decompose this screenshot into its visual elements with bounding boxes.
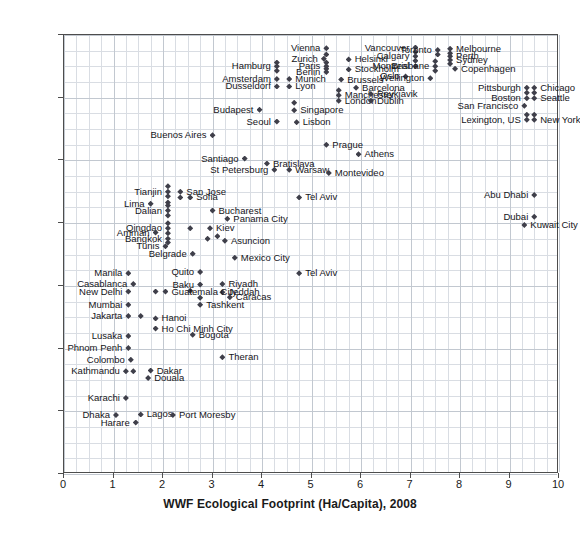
y-tick bbox=[58, 34, 63, 35]
data-point-label: Warsaw bbox=[295, 165, 329, 175]
diamond-marker-icon bbox=[148, 368, 154, 374]
diamond-marker-icon bbox=[296, 194, 302, 200]
gridline-horizontal bbox=[64, 349, 557, 350]
gridline-horizontal bbox=[64, 129, 557, 130]
data-point-label: Chicago bbox=[540, 83, 575, 93]
diamond-marker-icon bbox=[165, 208, 171, 214]
gridline-vertical bbox=[89, 35, 90, 472]
y-tick bbox=[58, 285, 63, 286]
data-point-label: Tel Aviv bbox=[305, 192, 337, 202]
gridline-vertical bbox=[188, 35, 189, 472]
data-point-label: Kathmandu bbox=[71, 366, 120, 376]
x-tick-label: 6 bbox=[357, 478, 363, 490]
diamond-marker-icon bbox=[521, 222, 527, 228]
data-point-label: Seattle bbox=[540, 93, 570, 103]
diamond-marker-icon bbox=[190, 251, 196, 257]
diamond-marker-icon bbox=[177, 194, 183, 200]
gridline-vertical bbox=[200, 35, 201, 472]
data-point-label: Vienna bbox=[291, 43, 320, 53]
data-point-label: Lexington, US bbox=[461, 115, 521, 125]
gridline-horizontal bbox=[64, 364, 557, 365]
diamond-marker-icon bbox=[524, 95, 530, 101]
gridline-horizontal bbox=[64, 443, 557, 444]
x-tick-label: 5 bbox=[307, 478, 313, 490]
data-point-label: Buenos Aires bbox=[151, 130, 207, 140]
gridline-horizontal bbox=[64, 380, 557, 381]
diamond-marker-icon bbox=[291, 100, 297, 106]
data-point-label: Mumbai bbox=[89, 300, 123, 310]
gridline-horizontal bbox=[64, 427, 557, 428]
diamond-marker-icon bbox=[130, 281, 136, 287]
gridline-vertical bbox=[312, 35, 313, 472]
diamond-marker-icon bbox=[145, 375, 151, 381]
diamond-marker-icon bbox=[138, 313, 144, 319]
diamond-marker-icon bbox=[224, 216, 230, 222]
diamond-marker-icon bbox=[427, 75, 433, 81]
data-point-label: Harare bbox=[101, 418, 130, 428]
data-point-label: Bogota bbox=[199, 330, 229, 340]
diamond-marker-icon bbox=[447, 57, 453, 63]
data-point-label: Lusaka bbox=[92, 331, 123, 341]
gridline-horizontal bbox=[64, 145, 557, 146]
diamond-marker-icon bbox=[257, 107, 263, 113]
gridline-horizontal-major bbox=[64, 411, 557, 412]
diamond-marker-icon bbox=[153, 315, 159, 321]
diamond-marker-icon bbox=[197, 302, 203, 308]
data-point-label: Montevideo bbox=[335, 168, 384, 178]
diamond-marker-icon bbox=[210, 132, 216, 138]
diamond-marker-icon bbox=[123, 368, 129, 374]
gridline-vertical bbox=[423, 35, 424, 472]
x-tick-label: 4 bbox=[258, 478, 264, 490]
diamond-marker-icon bbox=[323, 45, 329, 51]
diamond-marker-icon bbox=[232, 255, 238, 261]
gridline-horizontal-major bbox=[64, 349, 557, 350]
diamond-marker-icon bbox=[336, 92, 342, 98]
data-point-label: San Francisco bbox=[458, 101, 519, 111]
x-tick-label: 3 bbox=[208, 478, 214, 490]
data-point-label: Jakarta bbox=[91, 311, 122, 321]
diamond-marker-icon bbox=[274, 76, 280, 82]
y-tick bbox=[58, 159, 63, 160]
diamond-marker-icon bbox=[133, 420, 139, 426]
data-point-label: Hamburg bbox=[232, 61, 271, 71]
diamond-marker-icon bbox=[286, 83, 292, 89]
data-point-label: Tel Aviv bbox=[305, 268, 337, 278]
data-point-label: Wellington bbox=[380, 73, 424, 83]
diamond-marker-icon bbox=[531, 95, 537, 101]
gridline-vertical-major bbox=[411, 35, 412, 472]
gridline-horizontal bbox=[64, 286, 557, 287]
gridline-horizontal-major bbox=[64, 35, 557, 36]
y-tick bbox=[58, 473, 63, 474]
data-point-label: Lagos bbox=[147, 409, 173, 419]
data-point-label: St Petersburg bbox=[210, 165, 268, 175]
diamond-marker-icon bbox=[531, 192, 537, 198]
x-tick-label: 9 bbox=[505, 478, 511, 490]
data-point-label: Asuncion bbox=[231, 236, 270, 246]
data-point-label: Port Moresby bbox=[179, 410, 236, 420]
scatter-chart-figure: ViennaZurichParisBerlinHelsinkiStockholm… bbox=[0, 0, 580, 539]
gridline-vertical bbox=[299, 35, 300, 472]
gridline-horizontal bbox=[64, 411, 557, 412]
data-point-label: Dusseldorf bbox=[225, 81, 270, 91]
diamond-marker-icon bbox=[187, 225, 193, 231]
data-point-label: Karachi bbox=[88, 393, 120, 403]
diamond-marker-icon bbox=[521, 103, 527, 109]
gridline-vertical bbox=[114, 35, 115, 472]
data-point-label: Sofia bbox=[196, 192, 218, 202]
gridline-horizontal bbox=[64, 396, 557, 397]
gridline-vertical-major bbox=[114, 35, 115, 472]
y-tick bbox=[58, 222, 63, 223]
data-point-label: Dalian bbox=[135, 206, 162, 216]
gridline-vertical-major bbox=[312, 35, 313, 472]
x-tick-label: 1 bbox=[109, 478, 115, 490]
diamond-marker-icon bbox=[165, 225, 171, 231]
gridline-vertical bbox=[237, 35, 238, 472]
diamond-marker-icon bbox=[346, 66, 352, 72]
gridline-vertical bbox=[126, 35, 127, 472]
data-point-label: Athens bbox=[365, 149, 395, 159]
diamond-marker-icon bbox=[205, 236, 211, 242]
data-point-label: Panama City bbox=[233, 214, 287, 224]
data-point-label: Toronto bbox=[400, 45, 432, 55]
data-point-label: Tashkent bbox=[206, 300, 244, 310]
diamond-marker-icon bbox=[338, 77, 344, 83]
